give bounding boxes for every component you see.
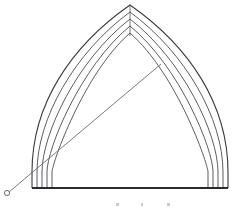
- arch-moulding-curve-2: [42, 19, 218, 188]
- caption-mark-2: [141, 203, 143, 206]
- gothic-arch-figure: [0, 0, 244, 210]
- arch-moulding-curve-3: [47, 26, 213, 188]
- caption-artifact-strip: [0, 201, 244, 210]
- arch-moulding-curve-4: [52, 33, 208, 188]
- construction-radius-line: [9, 64, 161, 192]
- compass-center-point-icon: [4, 190, 9, 195]
- caption-mark-1: [116, 203, 119, 206]
- caption-mark-3: [167, 203, 170, 206]
- arch-drawing-canvas: [0, 0, 244, 210]
